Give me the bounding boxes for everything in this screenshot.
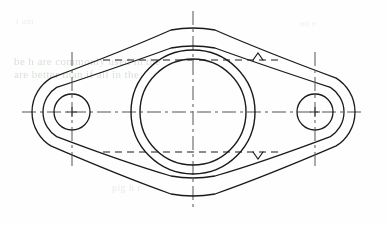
section-line-lower-group (103, 152, 278, 159)
bolt-hole-left-group (54, 52, 90, 166)
flange-drawing-svg (0, 0, 386, 225)
technical-drawing-canvas: be h are commonly used in the are better… (0, 0, 386, 225)
section-arrow-up-icon (253, 53, 263, 60)
section-arrow-down-icon (253, 152, 263, 159)
